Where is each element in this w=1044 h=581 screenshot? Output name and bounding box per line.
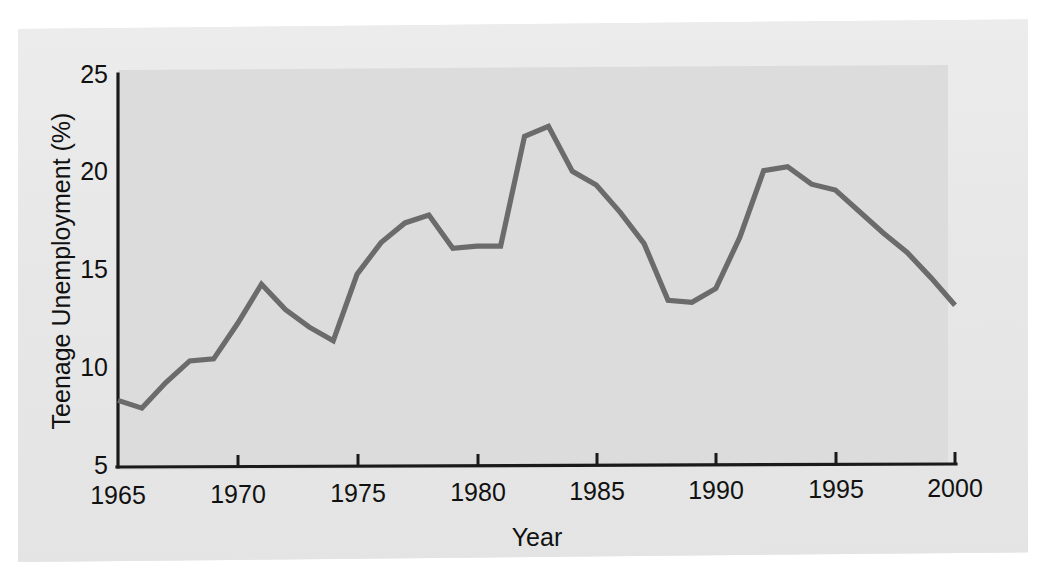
x-tick-label-1995: 1995 bbox=[808, 475, 864, 503]
x-axis-line bbox=[117, 464, 956, 467]
x-tick-label-1975: 1975 bbox=[330, 479, 386, 507]
x-tick-label-2000: 2000 bbox=[927, 474, 983, 502]
x-tick-label-1970: 1970 bbox=[210, 480, 266, 508]
y-tick-label-15: 15 bbox=[80, 255, 108, 283]
y-tick-label-25: 25 bbox=[80, 60, 108, 88]
y-axis-title: Teenage Unemployment (%) bbox=[47, 113, 75, 430]
line-chart: 25 20 15 10 5 1965 1970 1975 1980 1985 1… bbox=[0, 0, 1044, 581]
y-tick-label-5: 5 bbox=[94, 451, 108, 479]
y-tick-label-10: 10 bbox=[80, 353, 108, 381]
chart-page: 25 20 15 10 5 1965 1970 1975 1980 1985 1… bbox=[0, 0, 1044, 581]
x-axis-title: Year bbox=[512, 523, 563, 551]
plot-area: 25 20 15 10 5 1965 1970 1975 1980 1985 1… bbox=[0, 0, 1044, 581]
x-tick-label-1985: 1985 bbox=[569, 477, 625, 505]
y-tick-label-20: 20 bbox=[80, 157, 108, 185]
data-line-teenage-unemployment bbox=[118, 126, 955, 408]
x-tick-label-1990: 1990 bbox=[688, 476, 744, 504]
x-tick-label-1965: 1965 bbox=[90, 481, 146, 509]
x-tick-label-1980: 1980 bbox=[450, 478, 506, 506]
